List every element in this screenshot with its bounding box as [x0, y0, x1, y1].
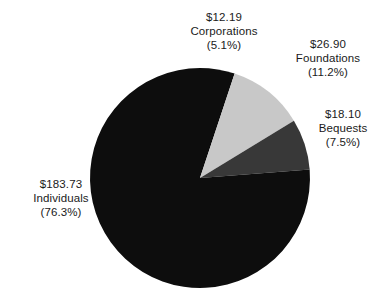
pie-slice-group	[90, 68, 310, 288]
slice-percent-foundations: (11.2%)	[272, 65, 384, 79]
slice-percent-individuals: (76.3%)	[8, 205, 114, 219]
slice-name-individuals: Individuals	[8, 191, 114, 205]
slice-label-corporations: $12.19 Corporations (5.1%)	[164, 10, 284, 52]
slice-value-corporations: $12.19	[164, 10, 284, 24]
slice-value-individuals: $183.73	[8, 177, 114, 191]
slice-label-bequests: $18.10 Bequests (7.5%)	[300, 107, 386, 149]
slice-percent-bequests: (7.5%)	[300, 135, 386, 149]
slice-name-bequests: Bequests	[300, 121, 386, 135]
slice-label-foundations: $26.90 Foundations (11.2%)	[272, 37, 384, 79]
slice-name-foundations: Foundations	[272, 51, 384, 65]
slice-value-foundations: $26.90	[272, 37, 384, 51]
slice-value-bequests: $18.10	[300, 107, 386, 121]
slice-name-corporations: Corporations	[164, 24, 284, 38]
pie-chart-figure: $12.19 Corporations (5.1%) $26.90 Founda…	[0, 0, 388, 301]
slice-percent-corporations: (5.1%)	[164, 38, 284, 52]
slice-label-individuals: $183.73 Individuals (76.3%)	[8, 177, 114, 219]
